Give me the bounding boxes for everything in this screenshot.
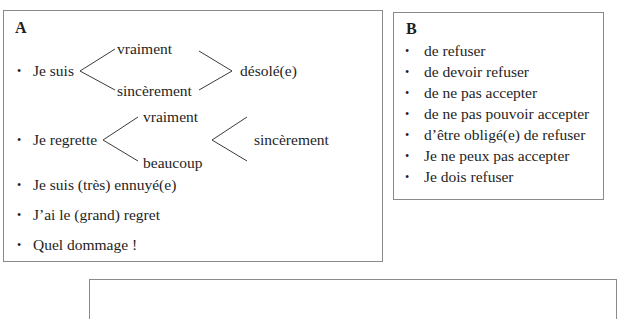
box-a-heading: A [15, 19, 27, 37]
bullet: • [405, 63, 409, 81]
row2-option-bottom: beaucoup [143, 154, 202, 172]
row1-option-top: vraiment [117, 40, 172, 58]
bullet: • [405, 105, 409, 123]
box-b-item: • Je ne peux pas accepter [405, 147, 605, 168]
box-b-heading: B [406, 20, 417, 38]
box-a-item: Je suis (très) ennuyé(e) [33, 176, 176, 194]
box-b-item: • Je dois refuser [405, 168, 605, 189]
box-b-item-text: Je dois refuser [424, 168, 514, 186]
bullet: • [405, 168, 409, 186]
box-b-item: • de ne pas pouvoir accepter [405, 105, 605, 126]
box-b-item-text: de refuser [424, 42, 486, 60]
box-b-item: • de ne pas accepter [405, 84, 605, 105]
bullet: • [17, 236, 21, 254]
box-c [89, 279, 617, 319]
box-b-item: • d’être obligé(e) de refuser [405, 126, 605, 147]
row2-tail: sincèrement [254, 131, 329, 149]
row1-option-bottom: sincèrement [117, 82, 192, 100]
bullet: • [17, 131, 21, 149]
box-b-item-text: de ne pas accepter [424, 84, 537, 102]
box-b-item: • de devoir refuser [405, 63, 605, 84]
row1-lead: Je suis [33, 62, 74, 80]
box-b-list: • de refuser • de devoir refuser • de ne… [405, 42, 605, 189]
row1-tail: désolé(e) [240, 62, 297, 80]
bullet: • [405, 84, 409, 102]
box-b-item-text: de ne pas pouvoir accepter [424, 105, 589, 123]
bullet: • [405, 147, 409, 165]
bullet: • [405, 42, 409, 60]
box-b-item-text: Je ne peux pas accepter [424, 147, 569, 165]
bullet: • [17, 176, 21, 194]
bullet: • [405, 126, 409, 144]
row2-option-top: vraiment [143, 108, 198, 126]
bullet: • [17, 206, 21, 224]
bullet: • [17, 62, 21, 80]
row2-lead: Je regrette [33, 131, 97, 149]
box-b-item-text: de devoir refuser [424, 63, 529, 81]
box-a-item: J’ai le (grand) regret [33, 206, 160, 224]
box-b-item-text: d’être obligé(e) de refuser [424, 126, 585, 144]
box-b-item: • de refuser [405, 42, 605, 63]
box-a-item: Quel dommage ! [33, 236, 137, 254]
